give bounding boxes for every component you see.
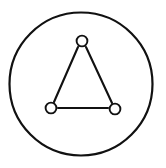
molecular-diagram-figure	[0, 0, 166, 168]
figure-background	[0, 0, 166, 168]
atom-node-top	[77, 36, 88, 47]
atom-node-bottom-right	[110, 104, 121, 115]
atom-node-bottom-left	[46, 103, 57, 114]
diagram-canvas	[0, 0, 166, 168]
